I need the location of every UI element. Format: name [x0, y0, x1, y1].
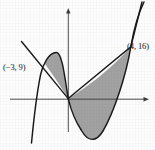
- secant-line: [22, 2, 143, 99]
- shaded-region-lower-right: [68, 47, 131, 140]
- point-label-right: (4, 16): [127, 42, 149, 51]
- y-axis: [66, 8, 70, 132]
- point-label-left: (−3, 9): [3, 63, 26, 72]
- graph-canvas: [0, 0, 155, 150]
- figure-container: (−3, 9) (4, 16): [0, 0, 155, 150]
